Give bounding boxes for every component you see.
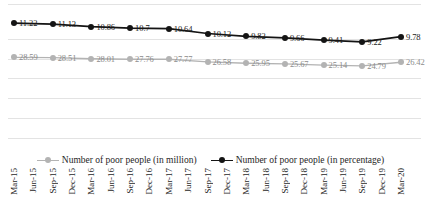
data-label: 25.14 (329, 61, 348, 70)
data-point (321, 37, 327, 43)
data-point (88, 56, 94, 62)
data-label: 9.66 (290, 34, 304, 43)
x-tick-mar-16: Mar-16 (86, 168, 96, 195)
dark-line-marker-key-icon (211, 156, 233, 165)
data-point (398, 59, 404, 65)
x-axis-labels: Mar-15Jun-15Sep-15Dec-15Mar-16Jun-16Sep-… (0, 168, 421, 220)
legend-item-million[interactable]: Number of poor people (in million) (37, 155, 197, 165)
x-tick-sep-18: Sep-18 (280, 168, 290, 194)
data-point (127, 25, 133, 31)
data-point (50, 21, 56, 27)
data-point (50, 55, 56, 61)
data-label: 26.42 (406, 58, 425, 67)
data-label: 26.58 (213, 58, 232, 67)
x-tick-dec-17: Dec-17 (222, 168, 232, 195)
data-point (205, 31, 211, 37)
x-tick-jun-19: Jun-19 (338, 168, 348, 193)
data-point (11, 54, 17, 60)
data-point (359, 63, 365, 69)
x-tick-jun-16: Jun-16 (106, 168, 116, 193)
data-point (11, 20, 17, 26)
chart-legend: Number of poor people (in million) Numbe… (0, 152, 421, 168)
data-label: 11.22 (19, 19, 37, 28)
gray-line-marker-key-icon (37, 156, 59, 165)
x-tick-dec-19: Dec-19 (377, 168, 387, 195)
x-tick-mar-17: Mar-17 (164, 168, 174, 195)
x-tick-mar-18: Mar-18 (241, 168, 251, 195)
data-label: 9.41 (329, 36, 343, 45)
data-point (359, 39, 365, 45)
data-point (282, 61, 288, 67)
x-tick-sep-15: Sep-15 (48, 168, 58, 194)
data-point (88, 24, 94, 30)
data-label: 25.95 (251, 59, 270, 68)
data-label: 27.76 (135, 55, 154, 64)
x-tick-mar-15: Mar-15 (9, 168, 19, 195)
data-label: 28.59 (19, 53, 38, 62)
legend-label-percentage: Number of poor people (in percentage) (236, 155, 385, 165)
data-label: 25.67 (290, 60, 309, 69)
data-point (127, 56, 133, 62)
plot-area: 28.5928.5128.0127.7627.7726.5825.9525.67… (0, 0, 421, 150)
data-label: 9.82 (251, 32, 265, 41)
legend-label-million: Number of poor people (in million) (62, 155, 197, 165)
data-label: 28.51 (58, 54, 77, 63)
data-point (166, 26, 172, 32)
x-tick-dec-15: Dec-15 (67, 168, 77, 195)
x-tick-dec-18: Dec-18 (299, 168, 309, 195)
x-tick-jun-15: Jun-15 (28, 168, 38, 193)
data-label: 27.77 (174, 55, 193, 64)
x-tick-sep-16: Sep-16 (125, 168, 135, 194)
data-label: 10.86 (96, 23, 115, 32)
data-label: 28.01 (96, 55, 115, 64)
data-label: 9.78 (406, 33, 420, 42)
x-tick-jun-18: Jun-18 (261, 168, 271, 193)
data-label: 10.7 (135, 24, 149, 33)
data-label: 10.64 (174, 25, 193, 34)
data-label: 9.22 (367, 38, 381, 47)
x-tick-jun-17: Jun-17 (183, 168, 193, 193)
x-tick-sep-17: Sep-17 (203, 168, 213, 194)
x-tick-mar-20: Mar-20 (396, 168, 406, 195)
data-point (243, 60, 249, 66)
data-point (321, 62, 327, 68)
data-label: 24.79 (367, 62, 386, 71)
data-point (243, 33, 249, 39)
data-label: 10.12 (213, 30, 232, 39)
data-label: 11.13 (58, 20, 76, 29)
data-point (398, 34, 404, 40)
data-point (205, 59, 211, 65)
x-tick-sep-19: Sep-19 (357, 168, 367, 194)
x-tick-mar-19: Mar-19 (319, 168, 329, 195)
x-tick-dec-16: Dec-16 (144, 168, 154, 195)
legend-item-percentage[interactable]: Number of poor people (in percentage) (211, 155, 385, 165)
data-point (282, 35, 288, 41)
data-point (166, 56, 172, 62)
